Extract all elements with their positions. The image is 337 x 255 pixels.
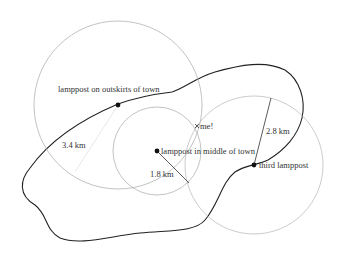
me-label: me! [200,121,213,131]
third-lamppost-dot [252,163,257,168]
third-lamppost-label: third lamppost [259,160,309,170]
outskirts-distance-label: 3.4 km [62,140,86,150]
me-marker-icon [195,124,199,128]
middle-lamppost-label: lamppost in middle of town [161,146,256,156]
third-distance-label: 2.8 km [266,126,290,136]
outskirts-lamppost-dot [116,103,121,108]
middle-lamppost-dot [155,149,160,154]
middle-distance-label: 1.8 km [150,169,174,179]
outskirts-radius-line [75,105,118,172]
trilateration-diagram: lamppost on outskirts of town 3.4 km lam… [0,0,337,255]
outskirts-lamppost-label: lamppost on outskirts of town [58,84,160,94]
